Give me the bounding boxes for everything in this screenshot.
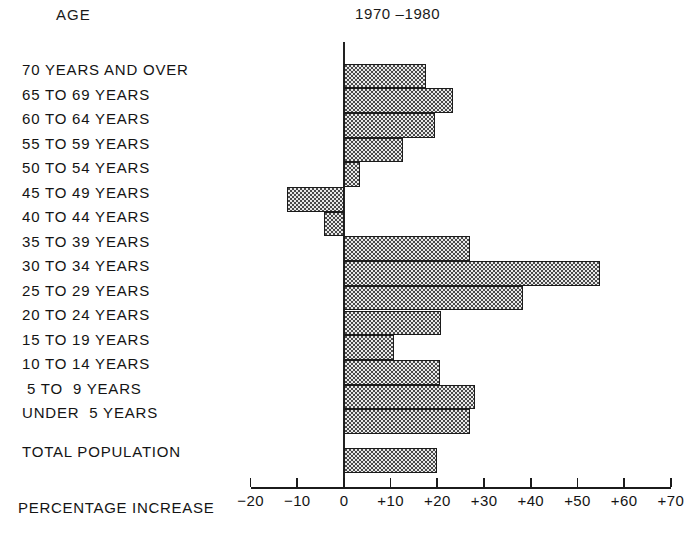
bar-10-to-14-years [344, 360, 440, 385]
x-axis-line [251, 487, 671, 489]
bar-30-to-34-years [344, 261, 600, 286]
plot-area: −20−100+10+20+30+40+50+60+70 [0, 0, 687, 536]
bar-60-to-64-years [344, 113, 435, 138]
x-axis-tick-label: −10 [272, 492, 322, 509]
x-axis-tick [577, 478, 579, 487]
x-axis-tick [530, 478, 532, 487]
x-axis-tick-label: +40 [506, 492, 556, 509]
bar-40-to-44-years [324, 212, 344, 237]
bar-5-to-9-years [344, 385, 475, 410]
bar-25-to-29-years [344, 286, 523, 311]
x-axis-tick [343, 478, 345, 487]
bar-50-to-54-years [344, 162, 360, 187]
chart-figure: AGE 1970 –1980 70 YEARS AND OVER65 TO 69… [0, 0, 687, 536]
bar-70-years-and-over [344, 64, 426, 89]
x-axis-tick [296, 478, 298, 487]
bar-35-to-39-years [344, 236, 470, 261]
x-axis-tick-label: −20 [226, 492, 276, 509]
bar-65-to-69-years [344, 88, 453, 113]
x-axis-tick-label: +10 [366, 492, 416, 509]
x-axis-tick-label: 0 [319, 492, 369, 509]
x-axis-tick-label: +60 [599, 492, 649, 509]
bar-total-population [344, 448, 437, 473]
x-axis-tick [390, 478, 392, 487]
x-axis-tick [250, 478, 252, 487]
x-axis-tick-label: +70 [646, 492, 687, 509]
x-axis-tick [623, 478, 625, 487]
x-axis-tick-label: +30 [459, 492, 509, 509]
x-axis-tick-label: +50 [553, 492, 603, 509]
x-axis-tick [670, 478, 672, 487]
bar-45-to-49-years [287, 187, 344, 212]
x-axis-tick-label: +20 [412, 492, 462, 509]
bar-20-to-24-years [344, 311, 441, 336]
bar-15-to-19-years [344, 335, 394, 360]
bar-under-5-years [344, 409, 470, 434]
bar-55-to-59-years [344, 138, 403, 163]
x-axis-tick [483, 478, 485, 487]
x-axis-tick [436, 478, 438, 487]
